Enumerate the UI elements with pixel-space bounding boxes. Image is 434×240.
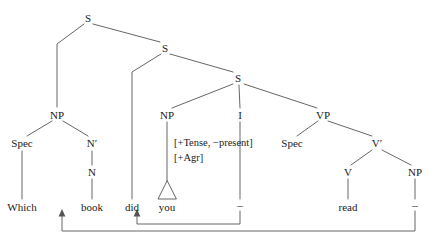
movement-arrow-np xyxy=(62,211,415,231)
tree-branches-svg xyxy=(0,0,434,240)
terminal-which: Which xyxy=(7,202,36,213)
terminal-read: read xyxy=(339,202,358,213)
node-n: N xyxy=(88,167,96,178)
node-v-bar: V′ xyxy=(372,138,382,149)
node-np-object: NP xyxy=(408,167,422,178)
syntax-tree-diagram: S S S NP Spec N′ N NP I VP Spec V′ V NP … xyxy=(0,0,434,240)
feature-agr: [+Agr] xyxy=(174,153,203,164)
node-i: I xyxy=(238,110,242,121)
node-v: V xyxy=(344,167,352,178)
branch-vbar-to-v xyxy=(351,150,372,165)
branch-stop-to-npwh xyxy=(57,24,84,107)
branch-slow-to-vp xyxy=(244,84,317,108)
branch-npwh-to-nbar xyxy=(63,121,88,136)
arrowhead-np xyxy=(59,209,66,217)
feature-tense: [+Tense, −present] xyxy=(174,138,253,149)
triangle-you-shape xyxy=(158,181,176,199)
branch-smid-to-did xyxy=(132,54,161,199)
node-n-bar: N′ xyxy=(87,138,97,149)
node-vp: VP xyxy=(316,110,330,121)
terminal-book: book xyxy=(81,202,103,213)
branch-vp-to-vbar xyxy=(328,121,372,136)
trace-i: – xyxy=(237,200,243,211)
terminal-did: did xyxy=(125,202,139,213)
node-spec-vp: Spec xyxy=(281,138,302,149)
branch-vbar-to-npobj xyxy=(382,150,411,165)
node-s-mid: S xyxy=(162,43,168,54)
movement-arrow-i xyxy=(137,211,240,224)
branch-npwh-to-spec xyxy=(27,121,52,136)
node-np-wh: NP xyxy=(50,110,64,121)
branch-slow-to-i xyxy=(239,85,240,108)
terminal-you: you xyxy=(159,202,176,213)
branch-vp-to-specvp xyxy=(297,121,318,136)
node-np-subject: NP xyxy=(160,110,174,121)
branch-stop-to-smid xyxy=(93,24,160,42)
node-spec-np-wh: Spec xyxy=(11,138,32,149)
branch-slow-to-npsubj xyxy=(172,84,233,108)
branch-smid-to-slow xyxy=(170,54,233,72)
trace-np-object: – xyxy=(412,200,418,211)
node-s-low: S xyxy=(235,73,241,84)
node-s-top: S xyxy=(85,13,91,24)
